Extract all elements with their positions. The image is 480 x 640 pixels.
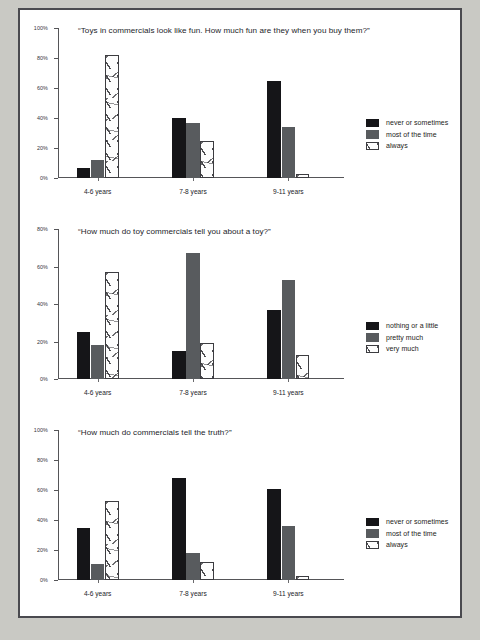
chart-1-bar [172,118,186,178]
chart-2-y-tick: 80% [54,229,58,230]
legend-swatch-icon [366,322,379,331]
chart-2-x-label: 4-6 years [84,389,112,396]
legend-swatch-icon [366,333,379,342]
chart-3-bar [105,501,119,581]
chart-1-x-label: 4-6 years [84,188,112,195]
chart-3-x-tick [98,580,99,583]
chart-3-x-tick [288,580,289,583]
chart-3-bar [91,564,105,581]
chart-2-bar [267,310,281,379]
chart-3-bar [172,478,186,580]
chart-1-x-tick [193,178,194,181]
chart-3-x-label: 9-11 years [273,590,304,597]
chart-3-plot: 0%20%40%60%80%100%4-6 years7-8 years9-11… [58,430,328,580]
legend-label: never or sometimes [386,119,448,126]
chart-3-y-tick-label: 20% [37,547,48,553]
legend-label: most of the time [386,530,437,537]
legend-swatch-icon [366,345,379,354]
chart-3-y-tick: 0% [54,580,58,581]
legend-item: pretty much [366,332,480,344]
chart-1-bar [186,123,200,179]
legend-swatch-icon [366,130,379,139]
chart-3-y-tick: 80% [54,460,58,461]
chart-1-y-tick-label: 60% [37,85,48,91]
page-background: “Toys in commercials look like fun. How … [0,0,480,640]
chart-2-y-tick-label: 0% [40,376,48,382]
legend-item: always [366,140,480,152]
chart-2-y-tick-label: 40% [37,301,48,307]
legend-label: always [386,541,408,548]
chart-1-x-tick [98,178,99,181]
chart-3-y-tick: 20% [54,550,58,551]
chart-2-bar [200,343,214,379]
chart-3-bar [200,562,214,580]
legend-swatch-icon [366,541,379,550]
chart-2-bar [296,355,310,379]
chart-3-x-label: 7-8 years [179,590,207,597]
chart-1-y-tick-label: 0% [40,175,48,181]
chart-2-bar [105,272,119,379]
chart-2-plot: 0%20%40%60%80%4-6 years7-8 years9-11 yea… [58,229,328,379]
chart-3-y-tick-label: 0% [40,577,48,583]
chart-1-y-axis [58,28,59,178]
chart-3-legend: never or sometimesmost of the timealways [366,516,480,551]
chart-3-y-axis [58,430,59,580]
chart-1-bar [296,174,310,179]
legend-item: never or sometimes [366,516,480,528]
chart-1-y-tick: 40% [54,118,58,119]
chart-1-plot: 0%20%40%60%80%100%4-6 years7-8 years9-11… [58,28,328,178]
chart-1-bar [105,55,119,178]
legend-label: nothing or a little [386,322,438,329]
chart-2-y-tick-label: 20% [37,339,48,345]
chart-1-y-tick-label: 20% [37,145,48,151]
chart-1-x-label: 7-8 years [179,188,207,195]
chart-3-y-tick-label: 60% [37,487,48,493]
chart-3-y-tick: 100% [54,430,58,431]
chart-1-x-label: 9-11 years [273,188,304,195]
chart-3-bar [267,489,281,581]
legend-label: never or sometimes [386,518,448,525]
chart-panel-1: “Toys in commercials look like fun. How … [20,14,460,212]
chart-3-x-label: 4-6 years [84,590,112,597]
legend-swatch-icon [366,119,379,128]
chart-2-bar [77,332,91,379]
legend-swatch-icon [366,518,379,527]
chart-1-y-tick-label: 40% [37,115,48,121]
legend-item: most of the time [366,129,480,141]
chart-2-y-tick: 40% [54,304,58,305]
chart-3-y-tick-label: 40% [37,517,48,523]
chart-1-bar [282,127,296,178]
chart-2-y-tick: 0% [54,379,58,380]
chart-2-x-tick [193,379,194,382]
legend-label: very much [386,345,419,352]
chart-1-legend: never or sometimesmost of the timealways [366,117,480,152]
legend-label: always [386,142,408,149]
legend-item: most of the time [366,528,480,540]
chart-1-y-tick: 20% [54,148,58,149]
chart-3-bar [186,553,200,580]
chart-2-x-tick [288,379,289,382]
chart-3-y-tick: 60% [54,490,58,491]
chart-2-y-tick-label: 60% [37,264,48,270]
legend-item: very much [366,343,480,355]
chart-1-y-tick: 100% [54,28,58,29]
chart-2-bar [186,253,200,379]
chart-3-y-tick-label: 80% [37,457,48,463]
chart-3-y-tick-label: 100% [34,427,48,433]
chart-1-y-tick-label: 80% [37,55,48,61]
chart-3-bar [296,576,310,581]
figure-sheet: “Toys in commercials look like fun. How … [18,8,462,618]
chart-2-x-tick [98,379,99,382]
legend-item: always [366,539,480,551]
chart-panel-2: “How much do toy commercials tell you ab… [20,215,460,413]
chart-1-x-tick [288,178,289,181]
legend-swatch-icon [366,529,379,538]
legend-label: pretty much [386,334,423,341]
chart-panel-3: “How much do commercials tell the truth?… [20,416,460,616]
chart-2-bar [91,345,105,379]
chart-2-y-tick: 20% [54,342,58,343]
legend-swatch-icon [366,142,379,151]
chart-3-x-tick [193,580,194,583]
chart-2-y-axis [58,229,59,379]
chart-1-y-tick: 80% [54,58,58,59]
